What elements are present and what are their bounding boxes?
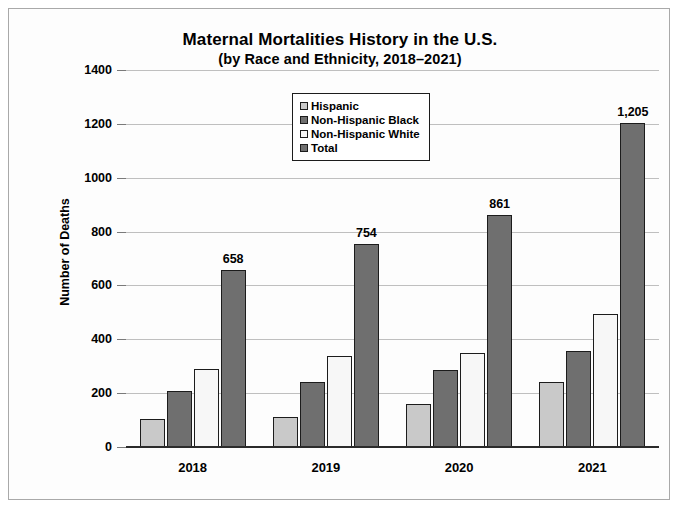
legend-item[interactable]: Non-Hispanic White (300, 127, 420, 141)
y-axis-tick (117, 178, 126, 179)
bar-group-bars: 658 (126, 70, 259, 447)
y-axis-tick-label: 800 (91, 225, 112, 239)
y-axis-tick (117, 232, 126, 233)
bar[interactable] (167, 391, 192, 447)
y-axis-tick (117, 393, 126, 394)
y-axis-tick (117, 447, 126, 448)
chart-legend: HispanicNon-Hispanic BlackNon-Hispanic W… (292, 93, 430, 161)
bar[interactable] (327, 356, 352, 447)
bar[interactable] (433, 370, 458, 447)
legend-swatch (300, 102, 308, 110)
bar[interactable] (300, 382, 325, 447)
bar[interactable] (140, 419, 165, 447)
x-axis-tick-label: 2021 (526, 460, 659, 475)
y-axis-tick (117, 70, 126, 71)
y-axis-tick (117, 339, 126, 340)
bar-group: 1,2052021 (526, 70, 659, 447)
legend-label: Total (311, 142, 338, 154)
bar[interactable]: 754 (354, 244, 379, 447)
chart-figure: Maternal Mortalities History in the U.S.… (8, 8, 670, 500)
x-axis-tick-label: 2020 (393, 460, 526, 475)
legend-label: Hispanic (311, 100, 359, 112)
legend-label: Non-Hispanic Black (311, 114, 419, 126)
y-axis-title: Number of Deaths (58, 172, 72, 332)
bar[interactable] (460, 353, 485, 447)
y-axis-tick (117, 285, 126, 286)
legend-item[interactable]: Non-Hispanic Black (300, 113, 420, 127)
x-axis-tick-label: 2018 (126, 460, 259, 475)
y-axis-tick-label: 400 (91, 332, 112, 346)
bar[interactable]: 1,205 (620, 123, 645, 447)
bar[interactable] (194, 369, 219, 447)
bar[interactable]: 861 (487, 215, 512, 447)
bar[interactable] (539, 382, 564, 447)
bar-value-label: 861 (489, 197, 510, 211)
x-axis-line (126, 446, 659, 448)
bar-value-label: 658 (223, 252, 244, 266)
bar[interactable] (406, 404, 431, 447)
bar-group-bars: 1,205 (526, 70, 659, 447)
legend-swatch (300, 130, 308, 138)
bar[interactable] (566, 351, 591, 447)
y-axis-tick-label: 600 (91, 278, 112, 292)
legend-item[interactable]: Hispanic (300, 99, 420, 113)
y-axis-tick-label: 1000 (84, 171, 112, 185)
y-axis-tick-label: 1200 (84, 117, 112, 131)
bar-value-label: 754 (356, 226, 377, 240)
x-axis-tick-label: 2019 (259, 460, 392, 475)
bar[interactable] (593, 314, 618, 447)
legend-swatch (300, 144, 308, 152)
legend-item[interactable]: Total (300, 141, 420, 155)
bar-value-label: 1,205 (617, 105, 648, 119)
bar[interactable]: 658 (221, 270, 246, 447)
legend-label: Non-Hispanic White (311, 128, 420, 140)
y-axis-tick-label: 0 (105, 440, 112, 454)
y-axis-tick (117, 124, 126, 125)
y-axis-tick-label: 200 (91, 386, 112, 400)
y-axis-tick-label: 1400 (84, 63, 112, 77)
page-title: Maternal Mortalities History in the U.S. (9, 29, 671, 50)
legend-swatch (300, 116, 308, 124)
bar-group: 6582018 (126, 70, 259, 447)
bar[interactable] (273, 417, 298, 447)
